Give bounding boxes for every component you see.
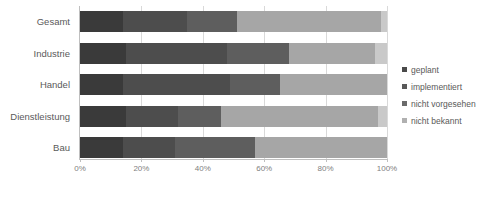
legend-label: geplant <box>411 65 439 75</box>
legend-item: nicht bekannt <box>402 113 496 128</box>
legend-item: implementiert <box>402 79 496 94</box>
plot-wrapper: GesamtIndustrieHandelDienstleistungBau 0… <box>0 6 400 174</box>
category-label: Bau <box>0 142 70 153</box>
legend-swatch-icon <box>402 84 407 89</box>
bar-segment <box>381 11 387 32</box>
axis-tick <box>141 159 142 162</box>
gridline <box>387 6 388 159</box>
stacked-bar-chart: GesamtIndustrieHandelDienstleistungBau 0… <box>0 0 496 197</box>
bar-segment <box>126 43 227 64</box>
legend-item: nicht vorgesehen <box>402 96 496 111</box>
bar-segment <box>80 106 126 127</box>
bar-segment <box>80 11 123 32</box>
legend-label: nicht bekannt <box>411 116 462 126</box>
axis-tick <box>387 159 388 162</box>
axis-tick <box>203 159 204 162</box>
bar-segment <box>255 137 387 158</box>
bar-segment <box>289 43 375 64</box>
bar-segment <box>80 74 123 95</box>
category-label: Industrie <box>0 48 70 59</box>
bar-segment <box>178 106 221 127</box>
bar-segment <box>280 74 387 95</box>
axis-tick-label: 100% <box>377 164 397 174</box>
bar-segment <box>227 43 288 64</box>
bar-segment <box>123 11 187 32</box>
axis-tick-label: 20% <box>133 164 149 174</box>
bar-segment <box>375 43 387 64</box>
bar-segment <box>80 43 126 64</box>
chart-legend: geplantimplementiertnicht vorgesehennich… <box>402 62 496 130</box>
legend-item: geplant <box>402 62 496 77</box>
legend-label: nicht vorgesehen <box>411 99 476 109</box>
bar-row <box>80 74 387 95</box>
value-axis-rule <box>79 159 388 160</box>
bar-segment <box>221 106 378 127</box>
bar-row <box>80 137 387 158</box>
bar-row <box>80 43 387 64</box>
legend-swatch-icon <box>402 67 407 72</box>
bar-segment <box>187 11 236 32</box>
bar-segment <box>123 137 175 158</box>
category-label: Gesamt <box>0 16 70 27</box>
bar-segment <box>378 106 387 127</box>
bar-row <box>80 106 387 127</box>
bar-segment <box>230 74 279 95</box>
legend-swatch-icon <box>402 118 407 123</box>
bar-segment <box>80 137 123 158</box>
bar-segment <box>237 11 381 32</box>
plot-area <box>80 6 387 159</box>
category-label: Handel <box>0 79 70 90</box>
axis-tick-label: 60% <box>256 164 272 174</box>
legend-label: implementiert <box>411 82 462 92</box>
value-axis: 0%20%40%60%80%100% <box>80 159 387 179</box>
axis-tick <box>80 159 81 162</box>
axis-tick <box>264 159 265 162</box>
bar-row <box>80 11 387 32</box>
axis-tick-label: 40% <box>195 164 211 174</box>
axis-tick <box>326 159 327 162</box>
bar-segment <box>175 137 255 158</box>
category-axis-labels: GesamtIndustrieHandelDienstleistungBau <box>0 6 76 159</box>
axis-tick-label: 0% <box>74 164 86 174</box>
axis-tick-label: 80% <box>318 164 334 174</box>
bar-segment <box>126 106 178 127</box>
category-label: Dienstleistung <box>0 111 70 122</box>
legend-swatch-icon <box>402 101 407 106</box>
bar-segment <box>123 74 230 95</box>
